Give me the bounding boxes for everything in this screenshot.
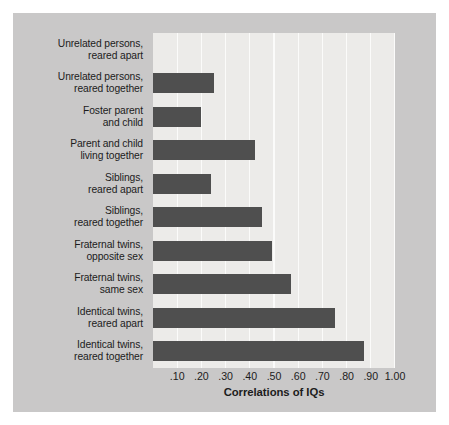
category-label-line: Fraternal twins, (74, 272, 143, 284)
bar-row (153, 201, 395, 235)
category-label-line: Foster parent (83, 105, 143, 117)
category-label-line: Siblings, (105, 172, 143, 184)
x-tick-label: .70 (315, 370, 330, 382)
category-label-line: Fraternal twins, (74, 239, 143, 251)
bar (153, 73, 214, 93)
category-label: Foster parentand child (18, 100, 148, 134)
category-label: Unrelated persons,reared apart (18, 33, 148, 67)
x-tick-label: 1.00 (385, 370, 406, 382)
category-label-line: Parent and child (70, 138, 143, 150)
bar (153, 207, 262, 227)
bar (153, 274, 291, 294)
category-label: Fraternal twins,opposite sex (18, 234, 148, 268)
bar-row (153, 67, 395, 101)
bar-row (153, 234, 395, 268)
x-tick-label: .90 (363, 370, 378, 382)
category-label-line: living together (80, 150, 143, 162)
category-axis-labels: Unrelated persons,reared apartUnrelated … (18, 33, 148, 368)
plot-area (153, 33, 395, 368)
x-tick-label: .20 (194, 370, 209, 382)
bar (153, 241, 272, 261)
category-label-line: Unrelated persons, (58, 38, 143, 50)
x-tick-label: .40 (242, 370, 257, 382)
bar (153, 107, 201, 127)
bar-row (153, 134, 395, 168)
category-label-line: opposite sex (86, 251, 143, 263)
x-axis-tick-labels: .10.20.30.40.50.60.70.80.901.00 (153, 370, 395, 384)
category-label-line: reared apart (88, 184, 143, 196)
x-tick-label: .60 (291, 370, 306, 382)
bar-row (153, 268, 395, 302)
category-label-line: Unrelated persons, (58, 71, 143, 83)
bar-row (153, 301, 395, 335)
bar (153, 140, 255, 160)
category-label-line: Identical twins, (77, 339, 143, 351)
category-label: Siblings,reared apart (18, 167, 148, 201)
bar-row (153, 100, 395, 134)
category-label-line: and child (103, 117, 143, 129)
category-label-line: reared together (74, 351, 143, 363)
category-label: Identical twins,reared apart (18, 301, 148, 335)
category-label-line: same sex (100, 284, 143, 296)
category-label-line: Siblings, (105, 205, 143, 217)
x-axis-title: Correlations of IQs (153, 386, 395, 398)
category-label: Siblings,reared together (18, 201, 148, 235)
category-label: Identical twins,reared together (18, 335, 148, 369)
bar-row (153, 33, 395, 67)
bar-series (153, 33, 395, 368)
category-label-line: reared apart (88, 318, 143, 330)
category-label: Unrelated persons,reared together (18, 67, 148, 101)
bar-row (153, 335, 395, 369)
category-label: Fraternal twins,same sex (18, 268, 148, 302)
category-label-line: reared together (74, 83, 143, 95)
x-tick-label: .50 (267, 370, 282, 382)
x-tick-label: .30 (218, 370, 233, 382)
category-label-line: Identical twins, (77, 306, 143, 318)
category-label-line: reared apart (88, 50, 143, 62)
iq-correlation-chart-figure: Unrelated persons,reared apartUnrelated … (0, 0, 449, 425)
category-label: Parent and childliving together (18, 134, 148, 168)
bar-row (153, 167, 395, 201)
bar (153, 341, 364, 361)
x-tick-label: .80 (339, 370, 354, 382)
x-tick-label: .10 (170, 370, 185, 382)
bar (153, 308, 335, 328)
category-label-line: reared together (74, 217, 143, 229)
bar (153, 174, 211, 194)
